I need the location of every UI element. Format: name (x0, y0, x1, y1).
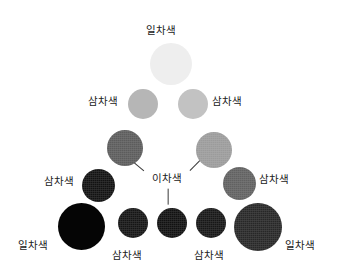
label-base-m1: 삼차색 (112, 249, 141, 262)
color-swatch-low-left (82, 169, 115, 202)
color-swatch-upper-left (128, 89, 158, 119)
label-low-right: 삼차색 (259, 173, 288, 186)
swatch-texture-overlay (223, 167, 256, 200)
connector-to-base-m2 (167, 189, 168, 205)
label-apex: 일차색 (146, 24, 175, 37)
label-base-right: 일차색 (285, 239, 314, 252)
label-secondary: 이차색 (152, 172, 181, 185)
color-swatch-apex (150, 43, 192, 85)
color-swatch-base-m2 (157, 208, 187, 238)
color-swatch-mid-left (107, 130, 143, 166)
color-swatch-base-m3 (196, 208, 226, 238)
swatch-texture-overlay (234, 203, 282, 251)
color-swatch-base-right (234, 203, 282, 251)
swatch-texture-overlay (107, 130, 143, 166)
color-swatch-low-right (223, 167, 256, 200)
color-swatch-base-m1 (118, 208, 148, 238)
label-base-m3: 삼차색 (194, 249, 223, 262)
label-upper-right: 삼차색 (212, 95, 241, 108)
color-swatch-mid-right (196, 132, 232, 168)
swatch-texture-overlay (157, 208, 187, 238)
label-upper-left: 삼차색 (88, 95, 117, 108)
swatch-texture-overlay (196, 132, 232, 168)
color-triangle-diagram: 일차색삼차색삼차색이차색삼차색삼차색일차색삼차색삼차색일차색 (0, 0, 337, 278)
color-swatch-base-left (58, 203, 105, 250)
swatch-texture-overlay (118, 208, 148, 238)
swatch-texture-overlay (196, 208, 226, 238)
swatch-texture-overlay (82, 169, 115, 202)
color-swatch-upper-right (178, 89, 208, 119)
label-base-left: 일차색 (18, 239, 47, 252)
label-low-left: 삼차색 (44, 175, 73, 188)
